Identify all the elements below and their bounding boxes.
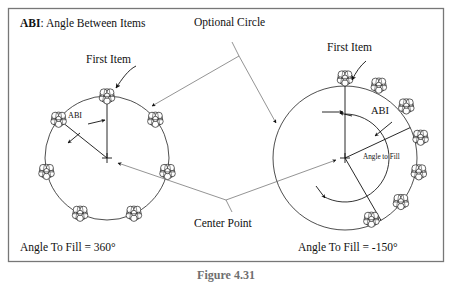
title-expansion: : Angle Between Items bbox=[40, 17, 145, 29]
angle-to-fill-left-caption: Angle To Fill = 360° bbox=[20, 242, 116, 254]
angle-to-fill-callout: Angle to Fill bbox=[363, 154, 400, 161]
title-abbreviation: ABI bbox=[20, 17, 40, 29]
first-item-label-left: First Item bbox=[86, 54, 131, 66]
first-item-label-right: First Item bbox=[327, 42, 372, 54]
page-title: ABI: Angle Between Items bbox=[20, 18, 146, 30]
figure-root: ABI: Angle Between Items Optional Circle… bbox=[0, 0, 452, 286]
abi-label-left: ABI bbox=[68, 112, 82, 120]
optional-circle-label: Optional Circle bbox=[194, 17, 265, 29]
figure-caption: Figure 4.31 bbox=[0, 268, 452, 286]
angle-to-fill-right-caption: Angle To Fill = -150° bbox=[298, 242, 398, 254]
abi-label-right: ABI bbox=[371, 106, 389, 117]
center-point-label: Center Point bbox=[194, 218, 252, 230]
